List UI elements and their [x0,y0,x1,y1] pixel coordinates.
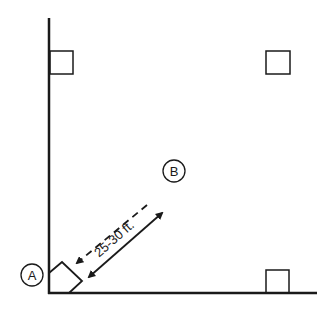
marker-square-top-left [50,51,73,74]
distance-label: 25-30 ft. [91,217,137,260]
point-b-marker: B [163,160,185,182]
point-a-label: A [28,268,37,283]
point-a-marker: A [21,264,43,286]
point-b-label: B [170,164,179,179]
marker-square-top-right [266,51,290,74]
marker-square-bottom-right [266,270,289,293]
corner-marker-square [49,262,82,293]
court-diagram: 25-30 ft. A B [0,0,330,312]
